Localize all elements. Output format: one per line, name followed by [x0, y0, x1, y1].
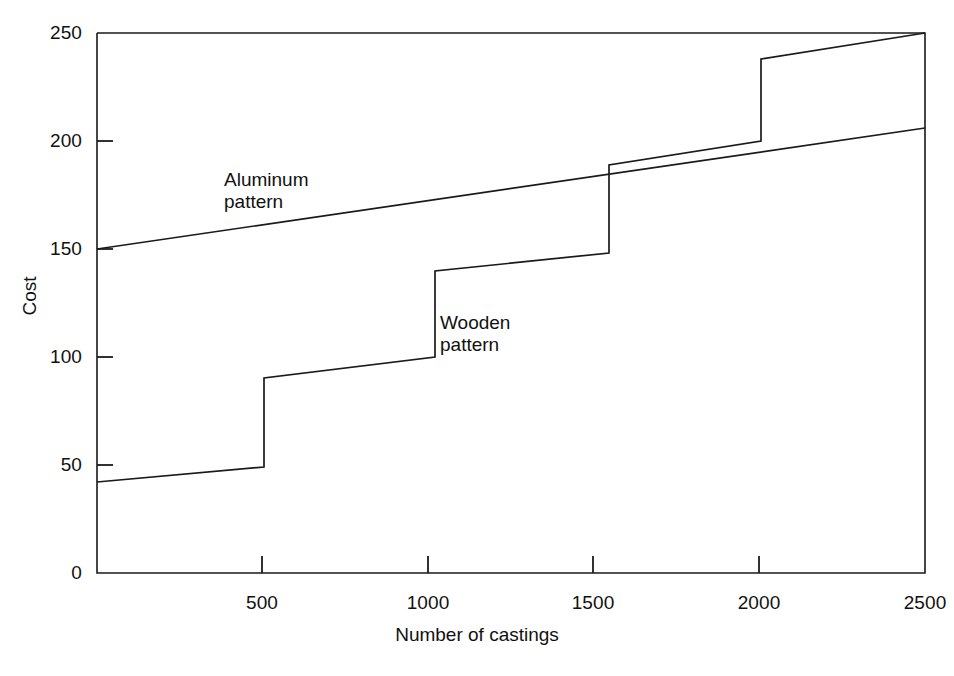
axis-frame [97, 33, 925, 573]
series-line-wooden [97, 33, 925, 482]
y-tick-label-200: 200 [14, 130, 82, 152]
x-axis-ticks [262, 556, 759, 573]
cost-vs-castings-chart: 250 200 150 100 50 0 500 1000 1500 2000 … [0, 0, 954, 676]
y-tick-label-50: 50 [14, 454, 82, 476]
y-tick-label-250: 250 [14, 22, 82, 44]
y-axis-title: Cost [19, 256, 41, 336]
wooden-pattern-label: Wooden pattern [440, 312, 510, 356]
y-tick-label-100: 100 [14, 346, 82, 368]
x-tick-label-500: 500 [212, 592, 312, 614]
x-tick-label-2000: 2000 [709, 592, 809, 614]
x-tick-label-2500: 2500 [875, 592, 954, 614]
x-tick-label-1500: 1500 [543, 592, 643, 614]
y-tick-label-0: 0 [14, 562, 82, 584]
x-tick-label-1000: 1000 [378, 592, 478, 614]
series-line-aluminum [97, 128, 925, 249]
y-axis-ticks [97, 141, 113, 465]
aluminum-pattern-label: Aluminum pattern [224, 169, 308, 213]
x-axis-title: Number of castings [0, 624, 954, 646]
